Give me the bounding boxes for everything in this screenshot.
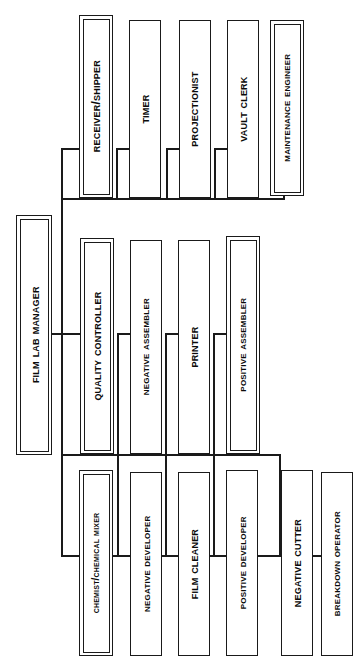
connector-branch2-posasm	[213, 333, 215, 456]
node-breakdown-operator-inner: Breakdown Operator	[322, 473, 352, 655]
node-negative-cutter-label: Negative Cutter	[291, 519, 303, 607]
node-breakdown-operator[interactable]: Breakdown Operator	[321, 472, 353, 656]
node-maintenance-engineer[interactable]: Maintenance Engineer	[270, 20, 304, 196]
node-film-lab-manager-inner: Film Lab Manager	[20, 219, 49, 452]
connector-branch1-timer	[116, 148, 118, 200]
connector-branch1-receiver-stub	[61, 148, 81, 150]
connector-branch3-chemist-stub	[61, 555, 81, 557]
node-positive-assembler-label: Positive Assembler	[237, 298, 248, 392]
connector-branch3-posdev	[213, 454, 215, 557]
node-positive-assembler[interactable]: Positive Assembler	[226, 236, 260, 454]
connector-branch1-vault	[214, 148, 216, 200]
node-film-cleaner-label: Film Cleaner	[188, 529, 200, 599]
connector-branch2-negasm-stub	[117, 333, 131, 335]
connector-branch3-cleaner	[165, 454, 167, 557]
node-printer-label: Printer	[188, 327, 200, 368]
node-chemist-chemical-mixer-inner: Chemist/Chemical Mixer	[83, 474, 110, 653]
connector-branch1-bus	[61, 198, 285, 200]
connector-branch3-chemist	[61, 454, 63, 557]
node-negative-assembler-inner: Negative Assembler	[131, 241, 161, 453]
connector-branch3-cleaner-stub	[165, 555, 179, 557]
node-negative-cutter-inner: Negative Cutter	[282, 471, 312, 655]
node-projectionist-label: Projectionist	[189, 71, 201, 146]
connector-branch2-posasm-stub	[213, 333, 227, 335]
connector-branch1-vault-stub	[214, 148, 228, 150]
connector-branch3-cutter-stub	[268, 555, 282, 557]
node-positive-developer[interactable]: Positive Developer	[226, 470, 258, 656]
node-timer[interactable]: Timer	[129, 20, 161, 198]
node-negative-assembler[interactable]: Negative Assembler	[130, 240, 162, 454]
node-receiver-shipper[interactable]: Receiver/Shipper	[79, 15, 113, 198]
node-negative-developer[interactable]: Negative Developer	[130, 472, 162, 656]
connector-branch2-quality-stub	[61, 333, 81, 335]
node-printer[interactable]: Printer	[178, 240, 210, 454]
connector-branch2-negasm	[117, 333, 119, 456]
node-negative-developer-label: Negative Developer	[140, 516, 151, 612]
node-film-lab-manager[interactable]: Film Lab Manager	[16, 215, 52, 455]
connector-branch2-quality	[61, 333, 63, 456]
node-timer-label: Timer	[139, 94, 151, 123]
connector-branch1-receiver	[61, 148, 63, 200]
node-quality-controller[interactable]: Quality Controller	[80, 238, 114, 454]
node-printer-inner: Printer	[179, 241, 209, 453]
node-quality-controller-label: Quality Controller	[91, 292, 103, 401]
node-vault-clerk-inner: Vault Clerk	[228, 21, 258, 197]
org-chart-canvas: Film Lab Manager Receiver/Shipper Timer …	[0, 0, 360, 668]
node-quality-controller-inner: Quality Controller	[84, 242, 111, 451]
node-chemist-chemical-mixer[interactable]: Chemist/Chemical Mixer	[79, 470, 113, 656]
node-receiver-shipper-inner: Receiver/Shipper	[83, 19, 110, 195]
node-projectionist-inner: Projectionist	[180, 21, 210, 197]
node-maintenance-engineer-label: Maintenance Engineer	[281, 54, 292, 162]
node-chemist-chemical-mixer-label: Chemist/Chemical Mixer	[91, 513, 101, 614]
connector-branch3-posdev-stub	[213, 555, 227, 557]
connector-branch1-projectionist	[166, 148, 168, 200]
node-receiver-shipper-label: Receiver/Shipper	[90, 60, 102, 152]
node-vault-clerk-label: Vault Clerk	[237, 76, 249, 141]
connector-branch3-negdev-stub	[117, 555, 131, 557]
node-positive-developer-label: Positive Developer	[236, 516, 247, 609]
node-positive-assembler-inner: Positive Assembler	[230, 240, 257, 451]
node-vault-clerk[interactable]: Vault Clerk	[227, 20, 259, 198]
connector-branch1-projectionist-stub	[166, 148, 180, 150]
node-negative-cutter[interactable]: Negative Cutter	[281, 470, 313, 656]
node-projectionist[interactable]: Projectionist	[179, 20, 211, 198]
connector-branch2-bus	[61, 454, 280, 456]
node-negative-developer-inner: Negative Developer	[131, 473, 161, 655]
node-positive-developer-inner: Positive Developer	[227, 471, 257, 655]
node-timer-inner: Timer	[130, 21, 160, 197]
node-film-cleaner-inner: Film Cleaner	[179, 473, 209, 655]
node-breakdown-operator-label: Breakdown Operator	[331, 511, 342, 616]
node-film-lab-manager-label: Film Lab Manager	[27, 287, 41, 384]
node-maintenance-engineer-inner: Maintenance Engineer	[274, 24, 301, 193]
connector-branch2-printer	[165, 333, 167, 456]
node-negative-assembler-label: Negative Assembler	[140, 298, 151, 395]
connector-branch3-negdev	[117, 454, 119, 557]
node-film-cleaner[interactable]: Film Cleaner	[178, 472, 210, 656]
connector-branch1-timer-stub	[116, 148, 130, 150]
connector-branch2-printer-stub	[165, 333, 179, 335]
